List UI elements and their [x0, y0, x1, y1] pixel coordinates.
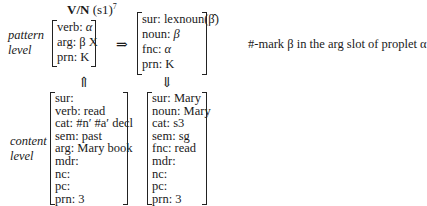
- rule-annotation: #-mark β in the arg slot of proplet α: [248, 37, 427, 52]
- bracket-left: [52, 20, 57, 67]
- avm-row: noun: β: [137, 27, 207, 42]
- bracket-left: [137, 12, 142, 75]
- avm-row: verb: α: [52, 20, 96, 35]
- double-right-arrow-icon: ⇒: [116, 38, 128, 52]
- avm-row: prn: 3: [147, 193, 207, 206]
- pattern-label-line2: level: [8, 43, 44, 58]
- avm-row: arg: β X: [52, 35, 96, 50]
- rule-name: V/N: [67, 2, 89, 17]
- bracket-right: [123, 92, 128, 205]
- content-input-avm: sur: verb: read cat: #n′ #a′ decl sem: p…: [50, 92, 128, 205]
- double-up-arrow-icon: ⇑: [78, 76, 90, 90]
- avm-row: prn: 3: [50, 193, 128, 206]
- rule-superscript: 7: [113, 2, 117, 11]
- pattern-level-label: pattern level: [8, 28, 44, 58]
- avm-row: prn: K: [52, 50, 96, 65]
- pattern-input-avm: verb: α arg: β X prn: K: [52, 20, 96, 67]
- bracket-right: [202, 12, 207, 75]
- rule-title: V/N (s1)7: [67, 2, 117, 18]
- avm-row: sur: lexnoun(β̂): [137, 12, 207, 27]
- pattern-label-line1: pattern: [8, 28, 44, 43]
- rule-arg: (s1): [93, 2, 113, 17]
- bracket-left: [147, 92, 152, 205]
- avm-row: fnc: α: [137, 42, 207, 57]
- double-down-arrow-icon: ⇓: [161, 76, 173, 90]
- bracket-right: [91, 20, 96, 67]
- bracket-left: [50, 92, 55, 205]
- content-label-line2: level: [10, 149, 47, 164]
- content-level-label: content level: [10, 134, 47, 164]
- pattern-output-avm: sur: lexnoun(β̂) noun: β fnc: α prn: K: [137, 12, 207, 75]
- content-label-line1: content: [10, 134, 47, 149]
- bracket-right: [202, 92, 207, 205]
- content-output-avm: sur: Mary noun: Mary cat: s3 sem: sg fnc…: [147, 92, 207, 205]
- avm-row: prn: K: [137, 57, 207, 72]
